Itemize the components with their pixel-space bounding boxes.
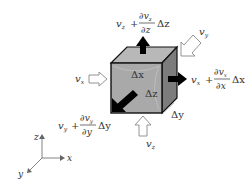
svg-text:+: +	[71, 120, 79, 131]
x-axis-arrowhead-icon	[60, 155, 65, 161]
svg-text:vy: vy	[58, 120, 68, 133]
outflow-x-formula: vx + ∂vx ∂x Δx	[191, 67, 245, 91]
coordinate-axes: z x y	[17, 132, 72, 179]
y-axis-line	[30, 158, 42, 170]
svg-text:vz: vz	[116, 18, 126, 30]
control-volume-diagram: Δx Δz Δy vx vy vz vz + ∂vz	[0, 0, 249, 188]
dimension-dy-label: Δy	[171, 109, 184, 120]
svg-text:Δz: Δz	[157, 18, 170, 29]
svg-text:∂vy: ∂vy	[80, 113, 94, 125]
dimension-dx-label: Δx	[131, 69, 144, 80]
inflow-z-arrow-icon	[135, 116, 151, 136]
outflow-y-formula: vy + ∂vy ∂y Δy	[58, 113, 111, 137]
svg-text:∂x: ∂x	[216, 81, 226, 91]
outflow-z-formula: vz + ∂vz ∂z Δz	[116, 11, 170, 35]
svg-text:∂vz: ∂vz	[139, 11, 152, 22]
svg-text:+: +	[130, 18, 138, 29]
svg-text:Δy: Δy	[98, 120, 111, 131]
svg-text:∂vx: ∂vx	[214, 67, 228, 78]
svg-text:∂z: ∂z	[141, 25, 151, 35]
dimension-dz-label: Δz	[145, 88, 158, 99]
inflow-y-arrow-icon	[181, 35, 201, 56]
svg-text:Δx: Δx	[232, 74, 245, 85]
x-axis-label: x	[67, 153, 72, 163]
y-axis-label: y	[17, 169, 24, 179]
inflow-vz-label: vz	[146, 138, 156, 150]
z-axis-label: z	[33, 132, 39, 142]
svg-text:∂y: ∂y	[82, 127, 93, 137]
inflow-vx-label: vx	[75, 73, 85, 85]
svg-text:vx: vx	[191, 74, 201, 86]
inflow-vy-label: vy	[199, 26, 209, 39]
z-axis-arrowhead-icon	[39, 134, 45, 139]
inflow-x-arrow-icon	[89, 72, 107, 86]
svg-text:+: +	[205, 74, 213, 85]
